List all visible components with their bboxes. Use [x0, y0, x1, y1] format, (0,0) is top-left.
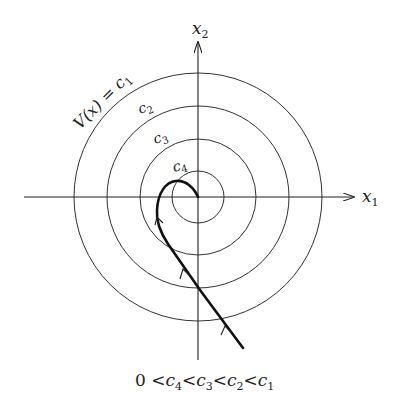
level-label-c3: c3 [151, 127, 170, 149]
caption: 0 <c4<c3<c2<c1 [135, 370, 274, 393]
trajectory-curve [157, 181, 243, 348]
trajectory-arrow-upper [180, 269, 190, 279]
level-label-c2: c2 [136, 97, 156, 119]
x2-axis-label: x2 [192, 18, 209, 41]
x1-axis-label: x1 [362, 186, 379, 209]
level-label-c4: c4 [171, 156, 189, 177]
level-label-c1: V(x) = c1 [69, 68, 136, 135]
lyapunov-diagram: x1 x2 V(x) = c1 c2 c3 c4 0 <c4<c3<c2<c1 [0, 0, 393, 405]
